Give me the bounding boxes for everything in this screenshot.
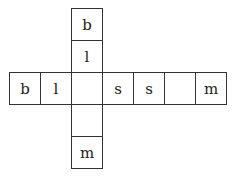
grid-cell-h5[interactable] [164, 72, 196, 105]
grid-cell-h1[interactable]: l [40, 72, 72, 105]
grid-cell-v0[interactable]: b [71, 8, 103, 41]
grid-cell-h4[interactable]: s [133, 72, 165, 105]
grid-cell-h3[interactable]: s [102, 72, 134, 105]
grid-cell-intersection[interactable] [71, 72, 103, 105]
grid-cell-v4[interactable]: m [71, 136, 103, 169]
grid-cell-h0[interactable]: b [9, 72, 41, 105]
grid-cell-v3[interactable] [71, 104, 103, 137]
grid-cell-h6[interactable]: m [195, 72, 227, 105]
grid-cell-v1[interactable]: l [71, 40, 103, 73]
